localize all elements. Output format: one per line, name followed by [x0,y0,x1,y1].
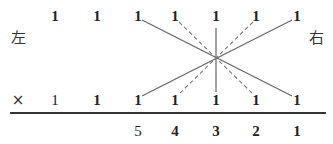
result-digit-2: 4 [171,124,179,139]
divider-line [10,112,326,114]
result-digit-3: 3 [212,124,220,139]
result-digit-4: 2 [252,124,260,139]
multiply-sign: × [12,93,25,108]
bottom-digit-7: 1 [293,93,301,108]
bottom-digit-1: 1 [51,93,59,108]
result-digit-5: 1 [293,124,301,139]
bottom-digit-5: 1 [212,93,220,108]
result-digit-1: 5 [134,124,142,139]
bottom-digit-3: 1 [134,93,142,108]
bottom-digit-6: 1 [252,93,260,108]
bottom-digit-2: 1 [93,93,101,108]
bottom-digit-4: 1 [171,93,179,108]
cross-lines [0,0,333,144]
